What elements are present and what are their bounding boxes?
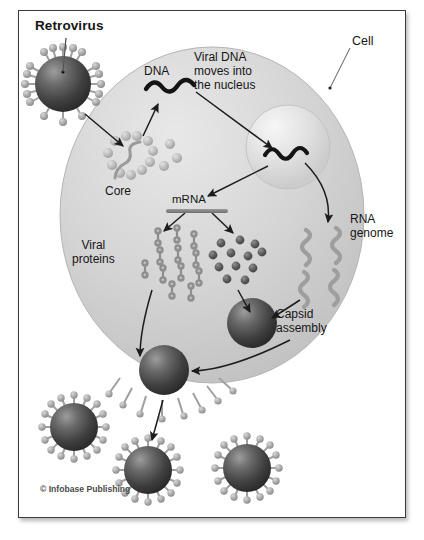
virion-released-3	[211, 432, 282, 503]
nucleus	[246, 105, 330, 189]
virion-released-2	[112, 434, 183, 505]
mrna-strand-bar	[166, 209, 228, 213]
label-cell: Cell	[352, 34, 374, 49]
retrovirus-replication-figure: Retrovirus Cell DNA Viral DNA moves into…	[0, 0, 424, 540]
label-retrovirus: Retrovirus	[35, 18, 104, 34]
label-mrna: mRNA	[172, 193, 206, 207]
label-rna-genome: RNA genome	[350, 212, 393, 240]
label-capsid-assembly: Capsid assembly	[276, 307, 327, 335]
label-core: Core	[105, 184, 131, 198]
virion-released-1	[38, 391, 109, 462]
copyright-notice: © Infobase Publishing	[40, 484, 130, 494]
label-dna: DNA	[144, 64, 169, 78]
capsid-assembled	[227, 298, 277, 348]
label-viral-proteins: Viral proteins	[72, 238, 115, 266]
leader-cell	[330, 48, 350, 88]
label-viral-dna-moves-into-nucleus: Viral DNA moves into the nucleus	[194, 50, 255, 92]
